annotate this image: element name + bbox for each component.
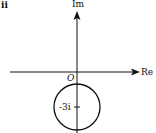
origin-label: O — [67, 74, 74, 83]
imaginary-axis-label: Im — [72, 0, 84, 9]
real-axis-label: Re — [141, 68, 153, 77]
argand-diagram — [0, 0, 156, 133]
part-label: ii — [1, 1, 8, 10]
circle-center-label: -3i — [59, 103, 71, 112]
